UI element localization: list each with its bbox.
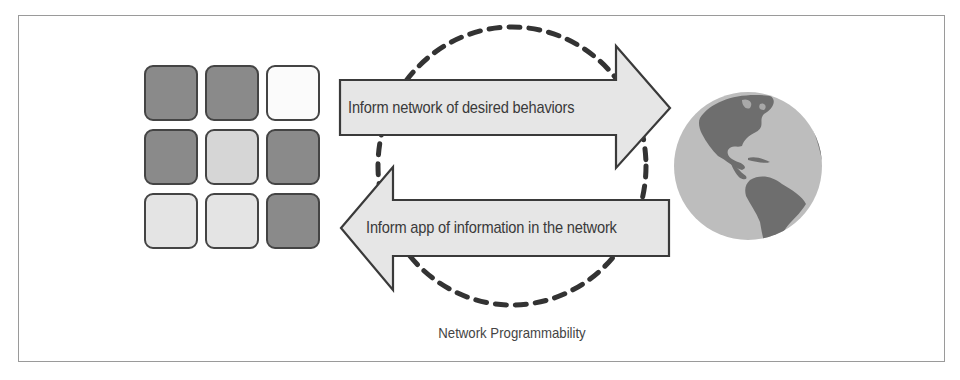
arrow-left-label: Inform app of information in the network: [366, 218, 617, 238]
diagram-canvas: [0, 0, 960, 380]
arrow-right-label: Inform network of desired behaviors: [348, 98, 574, 118]
figure-caption: Network Programmability: [61, 324, 960, 341]
globe-icon: [674, 92, 830, 252]
dashed-cycle-circle-icon: [378, 27, 646, 305]
